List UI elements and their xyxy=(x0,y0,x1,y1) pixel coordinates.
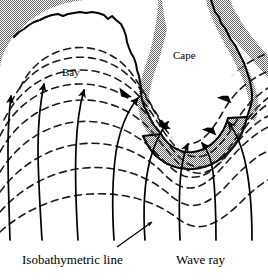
label-cape: Cape xyxy=(173,49,196,61)
coastline-group xyxy=(0,0,268,280)
wave-refraction-figure: Bay Cape Isobathymetric line Wave ray xyxy=(0,0,268,280)
label-bay: Bay xyxy=(62,66,80,78)
legend-wave-ray-label: Wave ray xyxy=(176,252,226,267)
legend-isobath-label: Isobathymetric line xyxy=(22,252,123,267)
diagram-canvas: Bay Cape Isobathymetric line Wave ray xyxy=(0,0,268,280)
